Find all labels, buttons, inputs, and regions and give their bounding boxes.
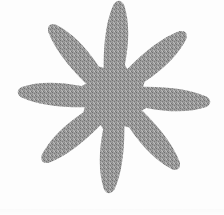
star-shape xyxy=(18,1,211,194)
image-canvas: Eight-pointed star silhouette xyxy=(0,0,224,215)
star-graphic xyxy=(0,0,224,215)
star-body xyxy=(18,1,211,194)
